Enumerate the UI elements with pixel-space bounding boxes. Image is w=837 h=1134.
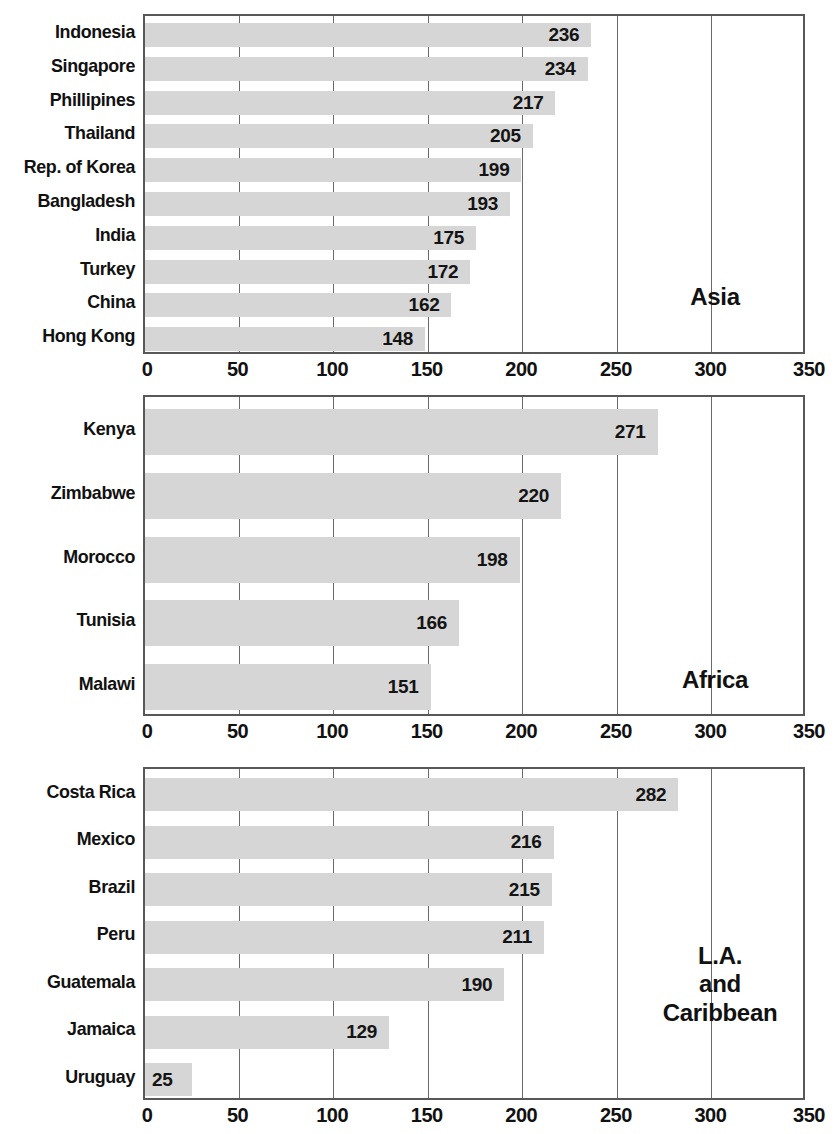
- tick-mark: [711, 47, 712, 57]
- bar-row[interactable]: 175: [145, 226, 803, 250]
- tick-mark: [239, 811, 240, 826]
- tick-mark: [239, 1001, 240, 1016]
- bar-value-label: 151: [388, 676, 419, 698]
- bar-value-label: 190: [462, 974, 493, 996]
- tick-mark: [522, 859, 523, 874]
- tick-mark: [617, 455, 618, 473]
- bar-row[interactable]: 205: [145, 124, 803, 148]
- bar[interactable]: [145, 921, 544, 954]
- bar[interactable]: [145, 23, 591, 47]
- bar[interactable]: [145, 473, 561, 519]
- x-tick-label-350: 350: [793, 720, 825, 743]
- bar[interactable]: [145, 778, 678, 811]
- tick-mark: [711, 859, 712, 874]
- category-label: Zimbabwe: [8, 482, 135, 504]
- bar[interactable]: [145, 873, 552, 906]
- tick-mark: [522, 182, 523, 192]
- tick-mark: [428, 646, 429, 664]
- category-label: Turkey: [8, 258, 135, 280]
- tick-mark: [333, 859, 334, 874]
- tick-mark: [239, 583, 240, 601]
- bar-row[interactable]: 193: [145, 192, 803, 216]
- tick-mark: [333, 284, 334, 294]
- tick-mark: [617, 81, 618, 91]
- bar-value-label: 220: [518, 485, 549, 507]
- bar-row[interactable]: 199: [145, 158, 803, 182]
- bar-row[interactable]: 217: [145, 91, 803, 115]
- bar-value-label: 129: [346, 1021, 377, 1043]
- tick-mark: [617, 351, 618, 354]
- bar[interactable]: [145, 91, 555, 115]
- category-label: Kenya: [8, 418, 135, 440]
- tick-mark: [522, 1001, 523, 1016]
- tick-mark: [428, 906, 429, 921]
- tick-mark: [617, 250, 618, 260]
- bar-row[interactable]: 271: [145, 409, 803, 455]
- bar-row[interactable]: 172: [145, 260, 803, 284]
- tick-mark: [522, 906, 523, 921]
- bar-row[interactable]: 282: [145, 778, 803, 811]
- bar[interactable]: [145, 968, 504, 1001]
- tick-mark: [239, 646, 240, 664]
- bar-row[interactable]: 234: [145, 57, 803, 81]
- x-tick-label-150: 150: [411, 720, 443, 743]
- bar[interactable]: [145, 158, 521, 182]
- region-label-asia: Asia: [620, 283, 810, 311]
- tick-mark: [428, 1049, 429, 1064]
- tick-mark: [522, 1096, 523, 1100]
- tick-mark: [428, 182, 429, 192]
- bar-row[interactable]: 25: [145, 1063, 803, 1096]
- x-axis-asia: 050100150200250300350: [143, 358, 805, 388]
- tick-mark: [239, 16, 240, 23]
- bar-row[interactable]: 220: [145, 473, 803, 519]
- tick-mark: [711, 906, 712, 921]
- bar[interactable]: [145, 124, 533, 148]
- category-label: Uruguay: [8, 1066, 135, 1088]
- bar-value-label: 198: [477, 549, 508, 571]
- tick-mark: [428, 1001, 429, 1016]
- tick-mark: [239, 710, 240, 716]
- tick-mark: [522, 1049, 523, 1064]
- plot-area-latin-america: 28221621521119012925: [143, 767, 805, 1100]
- bar-row[interactable]: 215: [145, 873, 803, 906]
- category-label: China: [8, 291, 135, 313]
- tick-mark: [239, 1049, 240, 1064]
- bar[interactable]: [145, 260, 470, 284]
- tick-mark: [333, 1049, 334, 1064]
- bar[interactable]: [145, 226, 476, 250]
- bar[interactable]: [145, 409, 658, 455]
- tick-mark: [522, 397, 523, 409]
- bar-row[interactable]: 198: [145, 537, 803, 583]
- tick-mark: [239, 397, 240, 409]
- bar-value-label: 215: [509, 879, 540, 901]
- category-label: Costa Rica: [8, 781, 135, 803]
- tick-mark: [428, 811, 429, 826]
- x-tick-label-150: 150: [411, 1104, 443, 1127]
- tick-mark: [239, 250, 240, 260]
- bar-row[interactable]: 216: [145, 826, 803, 859]
- panel-africa: 271220198166151 KenyaZimbabweMoroccoTuni…: [0, 390, 837, 752]
- tick-mark: [239, 769, 240, 778]
- bar[interactable]: [145, 57, 588, 81]
- tick-mark: [617, 115, 618, 125]
- bar[interactable]: [145, 537, 520, 583]
- tick-mark: [333, 250, 334, 260]
- bar[interactable]: [145, 826, 554, 859]
- x-tick-label-0: 0: [142, 720, 153, 743]
- x-tick-label-100: 100: [316, 358, 348, 381]
- bar-row[interactable]: 148: [145, 327, 803, 351]
- bar[interactable]: [145, 192, 510, 216]
- bar-row[interactable]: 236: [145, 23, 803, 47]
- bar[interactable]: [145, 600, 459, 646]
- tick-mark: [333, 519, 334, 537]
- bar-value-label: 193: [467, 193, 498, 215]
- tick-mark: [428, 81, 429, 91]
- bar-value-label: 25: [152, 1069, 173, 1091]
- bar-row[interactable]: 166: [145, 600, 803, 646]
- x-tick-label-300: 300: [694, 358, 726, 381]
- tick-mark: [617, 906, 618, 921]
- bar[interactable]: [145, 293, 451, 317]
- tick-mark: [617, 1096, 618, 1100]
- bar-value-label: 236: [549, 24, 580, 46]
- tick-mark: [522, 47, 523, 57]
